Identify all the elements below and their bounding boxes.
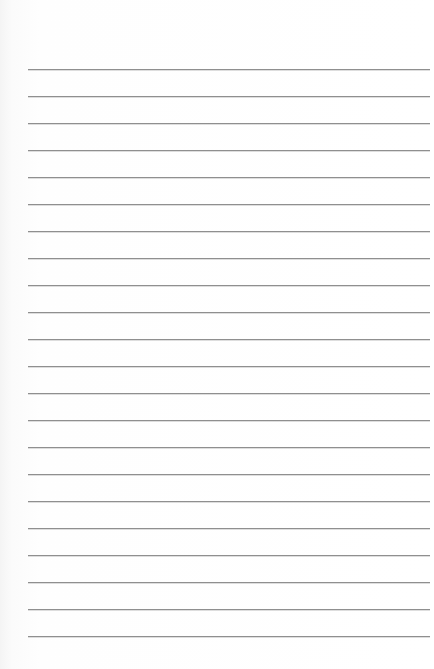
ruled-line [28, 204, 430, 205]
ruled-line [28, 474, 430, 475]
ruled-line [28, 393, 430, 394]
ruled-line [28, 231, 430, 232]
lined-paper-sheet [0, 0, 434, 669]
ruled-line [28, 339, 430, 340]
ruled-line [28, 177, 430, 178]
ruled-line [28, 609, 430, 610]
ruled-line [28, 420, 430, 421]
ruled-line [28, 582, 430, 583]
ruled-line [28, 150, 430, 151]
ruled-line [28, 123, 430, 124]
ruled-line [28, 555, 430, 556]
ruled-line [28, 447, 430, 448]
ruled-line [28, 366, 430, 367]
ruled-line [28, 636, 430, 637]
ruled-line [28, 501, 430, 502]
ruled-line [28, 258, 430, 259]
ruled-line [28, 285, 430, 286]
ruled-line [28, 312, 430, 313]
ruled-line [28, 69, 430, 70]
ruled-line [28, 96, 430, 97]
ruled-line [28, 528, 430, 529]
